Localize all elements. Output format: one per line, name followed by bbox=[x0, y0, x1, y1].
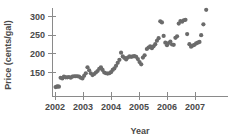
y-tick-label: 200 bbox=[30, 49, 45, 59]
y-tick-label: 300 bbox=[30, 12, 45, 22]
data-point bbox=[183, 18, 187, 22]
scatter-chart-figure: 150200250300 200220032004200520062007 Pr… bbox=[0, 0, 236, 140]
chart-canvas: 150200250300 200220032004200520062007 Pr… bbox=[0, 0, 236, 140]
y-axis: 150200250300 bbox=[30, 8, 56, 96]
data-point bbox=[162, 34, 166, 38]
data-point bbox=[119, 51, 123, 55]
data-point bbox=[197, 40, 201, 44]
data-point bbox=[143, 53, 147, 57]
data-point bbox=[139, 62, 143, 66]
data-point bbox=[199, 33, 203, 37]
x-tick-label: 2002 bbox=[45, 102, 65, 112]
data-point bbox=[84, 71, 88, 75]
y-tick-label: 250 bbox=[30, 30, 45, 40]
x-axis: 200220032004200520062007 bbox=[45, 92, 228, 112]
data-point bbox=[172, 43, 176, 47]
x-tick-label: 2004 bbox=[101, 102, 121, 112]
x-axis-title: Year bbox=[130, 126, 150, 136]
x-tick-label: 2003 bbox=[73, 102, 93, 112]
x-tick-label: 2005 bbox=[129, 102, 149, 112]
data-point bbox=[57, 85, 61, 89]
y-axis-title: Price (cents/gal) bbox=[3, 20, 13, 90]
data-point bbox=[160, 20, 164, 24]
data-point bbox=[204, 8, 208, 12]
data-point bbox=[175, 34, 179, 38]
data-point bbox=[117, 58, 121, 62]
data-point bbox=[157, 36, 161, 40]
y-tick-label: 150 bbox=[30, 68, 45, 78]
data-point bbox=[201, 22, 205, 26]
x-tick-label: 2007 bbox=[185, 102, 205, 112]
data-point bbox=[185, 32, 189, 36]
x-tick-label: 2006 bbox=[157, 102, 177, 112]
data-points bbox=[53, 8, 208, 89]
